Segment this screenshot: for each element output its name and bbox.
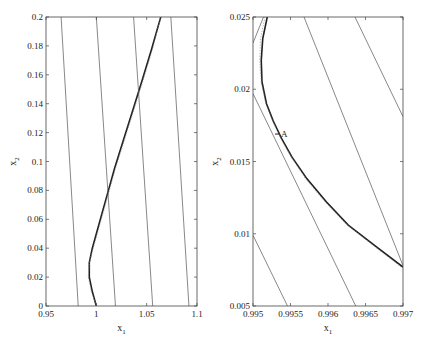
y-tick-label: 0.015 bbox=[230, 157, 251, 167]
y-tick-label: 0.16 bbox=[27, 70, 43, 80]
y-tick-label: 0.02 bbox=[234, 84, 250, 94]
axes-frame bbox=[253, 17, 403, 306]
y-tick-label: 0.025 bbox=[230, 12, 251, 22]
axes-frame bbox=[46, 17, 197, 306]
x-tick-label: 0.9965 bbox=[353, 309, 378, 319]
line-1-line bbox=[61, 17, 78, 306]
y-tick-label: 0.1 bbox=[32, 157, 43, 167]
y-tick-label: 0.06 bbox=[27, 214, 43, 224]
y-tick-label: 0.01 bbox=[234, 229, 250, 239]
y-tick-label: 0.005 bbox=[230, 301, 251, 311]
y-tick-label: 0.02 bbox=[27, 272, 43, 282]
x-tick-label: 0.996 bbox=[318, 309, 339, 319]
y-axis-label: x2 bbox=[7, 157, 21, 166]
line-5-line bbox=[355, 17, 403, 117]
figure: 0.9511.051.100.020.040.060.080.10.120.14… bbox=[0, 0, 423, 345]
dotted-approx-line bbox=[260, 17, 403, 268]
right-plot: 0.9950.99550.9960.99650.9970.0050.010.01… bbox=[209, 12, 414, 336]
y-tick-label: 0.04 bbox=[27, 243, 43, 253]
line-3-line bbox=[134, 17, 153, 306]
x-tick-label: 0.997 bbox=[393, 309, 414, 319]
x-tick-label: 1.1 bbox=[191, 309, 202, 319]
y-tick-label: 0.2 bbox=[32, 12, 43, 22]
x-axis-label: x1 bbox=[324, 322, 333, 336]
y-tick-label: 0 bbox=[39, 301, 44, 311]
line-1-line bbox=[253, 235, 288, 306]
annotation-label: A bbox=[281, 129, 288, 139]
y-tick-label: 0.18 bbox=[27, 41, 43, 51]
y-tick-label: 0.08 bbox=[27, 185, 43, 195]
y-tick-label: 0.14 bbox=[27, 99, 43, 109]
y-axis-label: x2 bbox=[209, 157, 223, 166]
x-tick-label: 0.9955 bbox=[278, 309, 303, 319]
series-group bbox=[253, 17, 403, 306]
series-group bbox=[61, 17, 189, 306]
line-2-line bbox=[253, 94, 356, 306]
left-plot: 0.9511.051.100.020.040.060.080.10.120.14… bbox=[7, 12, 203, 336]
line-4-line bbox=[171, 17, 189, 306]
x-tick-label: 1.05 bbox=[139, 309, 155, 319]
y-tick-label: 0.12 bbox=[27, 128, 43, 138]
x-axis-label: x1 bbox=[117, 322, 126, 336]
x-tick-label: 1 bbox=[94, 309, 99, 319]
line-2-line bbox=[96, 17, 115, 306]
